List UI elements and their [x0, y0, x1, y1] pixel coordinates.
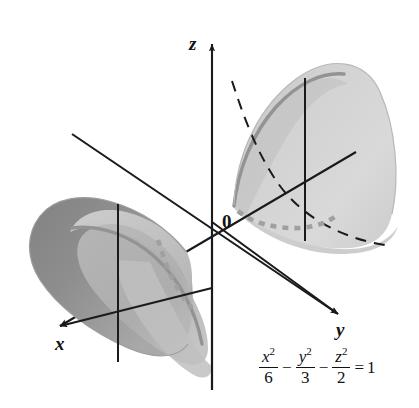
equation-term-z: z2 2 [332, 348, 350, 387]
equation-term-x-denominator: 6 [261, 368, 276, 387]
origin-label: 0 [222, 212, 232, 231]
equation-equals-sign: = [354, 359, 364, 376]
y-axis-label: y [336, 320, 344, 339]
equation-term-z-denominator: 2 [334, 368, 349, 387]
equation-term-y-numerator: y2 [296, 348, 315, 368]
right-sheet-group [232, 64, 398, 254]
z-axis-label: z [189, 34, 196, 53]
equation-term-z-variable: z [335, 347, 342, 366]
hyperboloid-figure: z y x 0 x2 6 − y2 3 − z2 2 = 1 [0, 0, 419, 408]
equation-operator-1: − [282, 359, 292, 376]
surface-equation: x2 6 − y2 3 − z2 2 = 1 [258, 348, 376, 387]
equation-term-y-exponent: 2 [306, 345, 312, 357]
equation-term-x-exponent: 2 [270, 345, 276, 357]
equation-right-hand-side: 1 [367, 359, 376, 376]
equation-term-x-variable: x [262, 347, 270, 366]
equation-term-x: x2 6 [259, 348, 278, 387]
equation-term-y-denominator: 3 [298, 368, 313, 387]
equation-term-z-exponent: 2 [342, 345, 348, 357]
equation-term-y: y2 3 [296, 348, 315, 387]
x-axis-label: x [55, 334, 65, 353]
equation-term-x-numerator: x2 [259, 348, 278, 368]
equation-operator-2: − [319, 359, 329, 376]
equation-term-z-numerator: z2 [332, 348, 350, 368]
